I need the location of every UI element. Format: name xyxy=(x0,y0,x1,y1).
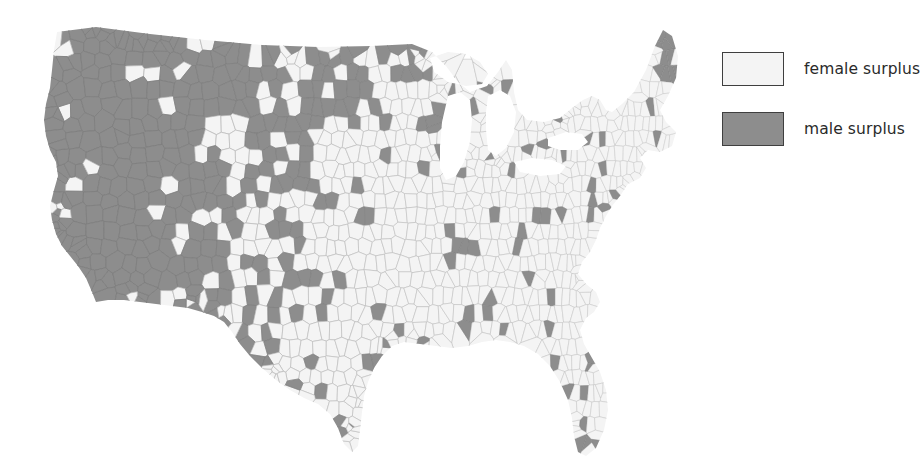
county-polygon xyxy=(179,144,196,165)
county-polygon xyxy=(0,184,57,220)
county-polygon xyxy=(433,286,444,306)
county-polygon xyxy=(268,307,281,324)
county-polygon xyxy=(230,237,244,255)
us-county-choropleth-map xyxy=(0,0,710,475)
county-polygon xyxy=(60,208,72,218)
county-polygon xyxy=(240,178,257,194)
legend-swatch-male-surplus xyxy=(722,112,784,146)
county-polygon xyxy=(201,240,217,258)
county-polygon xyxy=(640,21,665,43)
county-polygon xyxy=(593,361,619,385)
county-polygon xyxy=(347,80,361,99)
county-polygon xyxy=(620,185,645,202)
county-polygon xyxy=(231,303,243,323)
county-polygon xyxy=(315,237,328,256)
county-polygon xyxy=(547,289,555,307)
county-polygon xyxy=(451,167,467,179)
county-polygon xyxy=(321,370,334,385)
county-polygon xyxy=(178,302,203,349)
county-polygon xyxy=(398,161,406,178)
county-polygon xyxy=(354,161,365,177)
county-polygon xyxy=(227,254,241,271)
county-polygon xyxy=(390,99,403,116)
county-polygon xyxy=(404,337,417,373)
county-polygon xyxy=(21,251,80,310)
county-polygon xyxy=(1,213,61,229)
county-polygon xyxy=(286,399,330,444)
county-polygon xyxy=(300,146,314,162)
county-polygon xyxy=(625,131,634,147)
county-polygon xyxy=(147,288,161,346)
county-polygon xyxy=(434,223,446,239)
county-polygon xyxy=(580,386,589,401)
county-polygon xyxy=(572,175,582,192)
county-polygon xyxy=(130,296,153,349)
map-svg xyxy=(0,0,710,475)
legend-item-female-surplus: female surplus xyxy=(722,48,912,90)
legend-swatch-female-surplus xyxy=(722,52,784,86)
county-polygon xyxy=(86,221,104,240)
county-polygon xyxy=(6,230,65,282)
county-polygon xyxy=(386,163,398,177)
county-polygon xyxy=(427,305,439,324)
county-polygon xyxy=(2,227,62,275)
county-polygon xyxy=(404,194,417,208)
county-polygon xyxy=(603,370,628,393)
county-polygon xyxy=(627,115,636,130)
county-polygon xyxy=(602,208,629,235)
county-polygon xyxy=(245,164,261,180)
county-polygon xyxy=(509,206,518,222)
county-polygon xyxy=(105,293,132,349)
county-polygon xyxy=(5,172,66,193)
county-polygon xyxy=(623,178,647,203)
county-polygon xyxy=(592,439,618,465)
county-polygon xyxy=(289,390,315,432)
county-polygon xyxy=(33,190,64,204)
county-polygon xyxy=(213,2,258,49)
county-polygon xyxy=(547,86,575,117)
county-polygon xyxy=(522,354,551,388)
county-polygon xyxy=(361,116,370,132)
county-polygon xyxy=(333,80,347,100)
county-polygon xyxy=(456,254,466,271)
legend-label-male-surplus: male surplus xyxy=(804,120,905,138)
county-polygon xyxy=(25,222,59,229)
county-polygon xyxy=(255,385,300,430)
county-polygon xyxy=(662,111,685,130)
county-polygon xyxy=(441,237,453,255)
county-polygon xyxy=(572,354,581,370)
county-polygon xyxy=(617,69,642,94)
county-polygon xyxy=(411,341,429,375)
county-polygon xyxy=(257,175,272,192)
county-polygon xyxy=(125,0,158,40)
county-polygon xyxy=(569,289,576,308)
county-polygon xyxy=(319,176,332,195)
county-polygon xyxy=(630,172,656,198)
county-polygon xyxy=(448,153,467,170)
county-polygon xyxy=(164,299,186,347)
county-polygon xyxy=(609,199,636,221)
county-polygon xyxy=(417,192,427,209)
county-polygon xyxy=(260,374,282,415)
county-polygon xyxy=(248,19,263,68)
county-polygon xyxy=(614,145,623,161)
county-polygon xyxy=(218,354,265,401)
county-polygon xyxy=(130,148,147,164)
county-polygon xyxy=(255,191,269,209)
county-polygon xyxy=(308,287,322,307)
county-polygon xyxy=(381,347,401,364)
county-polygon xyxy=(289,304,304,323)
county-polygon xyxy=(338,303,352,321)
county-polygon xyxy=(398,336,407,368)
county-polygon xyxy=(111,64,126,82)
county-polygon xyxy=(241,223,258,241)
county-polygon xyxy=(500,127,519,147)
county-polygon xyxy=(548,98,562,123)
county-polygon-layer xyxy=(0,0,695,475)
county-polygon xyxy=(56,287,117,346)
county-polygon xyxy=(586,237,616,267)
county-polygon xyxy=(655,116,663,132)
county-polygon xyxy=(418,79,430,100)
county-polygon xyxy=(540,208,552,225)
county-polygon xyxy=(329,320,342,340)
